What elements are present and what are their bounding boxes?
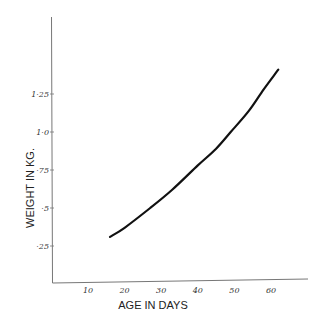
x-tick-label: 30 <box>156 286 166 295</box>
weight-curve <box>110 70 278 237</box>
x-axis-title: AGE IN DAYS <box>118 299 187 311</box>
x-tick-label: 50 <box>229 286 239 295</box>
growth-chart: ·25·5·751·01·25 102030405060 WEIGHT IN K… <box>0 0 325 327</box>
x-tick-label: 40 <box>192 286 203 295</box>
y-tick-label: ·5 <box>41 204 49 213</box>
y-tick-label: ·75 <box>36 166 49 175</box>
x-axis-line <box>53 279 309 283</box>
y-tick-label: 1·25 <box>31 90 49 99</box>
x-tick-label: 10 <box>83 286 93 295</box>
y-axis-title: WEIGHT IN KG. <box>24 148 36 228</box>
y-tick-label: ·25 <box>36 242 49 251</box>
y-axis-line <box>52 17 53 283</box>
x-tick-label: 60 <box>266 286 276 295</box>
x-tick-label: 20 <box>119 286 130 295</box>
x-ticks: 102030405060 <box>83 286 276 295</box>
y-tick-label: 1·0 <box>36 128 49 137</box>
